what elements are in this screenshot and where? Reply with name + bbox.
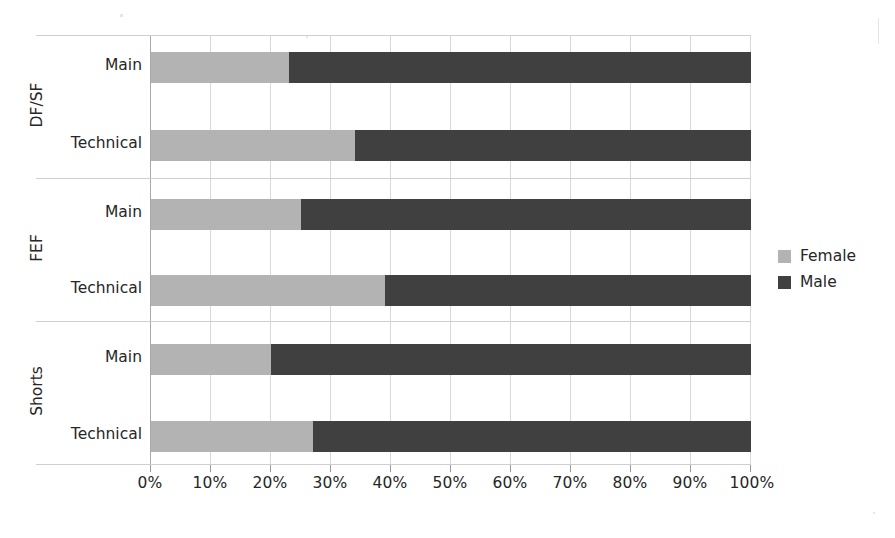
legend-swatch-male-icon (778, 276, 791, 289)
scan-speckle (306, 36, 308, 38)
tick-mark-100 (750, 465, 751, 472)
tick-mark-40 (390, 465, 391, 472)
group-label-shorts: Shorts (0, 382, 107, 400)
bar-segment-female (151, 199, 301, 230)
gridline-40 (390, 35, 391, 465)
legend-label-male: Male (800, 273, 837, 291)
group-label-fef: FEF (0, 239, 107, 257)
bar-segment-male (301, 199, 751, 230)
gridline-100 (750, 35, 751, 465)
bar-shorts-main (151, 344, 751, 375)
legend-swatch-female-icon (778, 250, 791, 263)
plot-area (150, 35, 750, 465)
bar-segment-female (151, 275, 385, 306)
group-separator-top (36, 35, 751, 36)
tick-mark-60 (510, 465, 511, 472)
tick-mark-90 (690, 465, 691, 472)
bar-dfsf-main (151, 52, 751, 83)
legend: Female Male (778, 243, 856, 295)
gridline-90 (690, 35, 691, 465)
gridline-80 (630, 35, 631, 465)
group-label-dfsf: DF/SF (0, 96, 107, 114)
gridline-70 (570, 35, 571, 465)
bar-segment-male (271, 344, 751, 375)
bar-segment-female (151, 130, 355, 161)
legend-item-male[interactable]: Male (778, 269, 856, 295)
group-separator-fef-shorts (36, 321, 751, 322)
bar-segment-male (289, 52, 751, 83)
tick-mark-70 (570, 465, 571, 472)
gridline-30 (330, 35, 331, 465)
scan-speckle (120, 14, 123, 17)
tick-mark-50 (450, 465, 451, 472)
stacked-bar-chart: 0% 10% 20% 30% 40% 50% 60% 70% 80% 90% 1… (0, 0, 895, 538)
scan-speckle (873, 512, 875, 514)
bar-fef-main (151, 199, 751, 230)
bar-segment-female (151, 344, 271, 375)
gridline-60 (510, 35, 511, 465)
legend-label-female: Female (800, 247, 856, 265)
tick-mark-10 (210, 465, 211, 472)
gridline-50 (450, 35, 451, 465)
group-separator-bottom (36, 464, 751, 465)
group-label-dfsf-text: DF/SF (28, 35, 46, 175)
tick-mark-30 (330, 465, 331, 472)
bar-segment-male (355, 130, 751, 161)
tick-mark-0 (150, 465, 151, 472)
legend-item-female[interactable]: Female (778, 243, 856, 269)
group-separator-dfsf-fef (36, 178, 751, 179)
scan-speckle (878, 18, 879, 44)
x-axis-tick-label: 90% (655, 474, 725, 492)
group-label-fef-text: FEF (28, 178, 46, 318)
bar-fef-technical (151, 275, 751, 306)
group-label-shorts-text: Shorts (28, 321, 46, 461)
tick-mark-80 (630, 465, 631, 472)
gridline-10 (210, 35, 211, 465)
bar-shorts-technical (151, 421, 751, 452)
gridline-20 (270, 35, 271, 465)
bar-segment-female (151, 52, 289, 83)
bar-segment-male (385, 275, 751, 306)
tick-mark-20 (270, 465, 271, 472)
x-axis-tick-label: 100% (717, 474, 787, 492)
bar-segment-female (151, 421, 313, 452)
bar-segment-male (313, 421, 751, 452)
bar-dfsf-technical (151, 130, 751, 161)
